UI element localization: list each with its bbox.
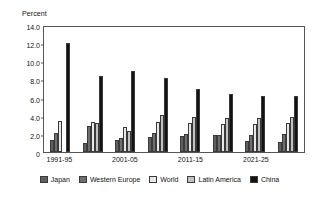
bar-group xyxy=(142,27,175,152)
x-axis-label-cell xyxy=(141,156,174,168)
x-axis-tick-label: 2021-25 xyxy=(243,156,269,163)
legend-item-label: China xyxy=(261,176,279,183)
x-axis-label-cell: 2021-25 xyxy=(240,156,273,168)
legend-swatch-icon xyxy=(79,176,87,183)
bar-china xyxy=(261,96,265,152)
legend-swatch-icon xyxy=(250,176,258,183)
legend-swatch-icon xyxy=(149,176,157,183)
legend-item-label: Latin America xyxy=(198,176,240,183)
legend-item-japan[interactable]: Japan xyxy=(40,176,70,183)
x-axis-tick-label: 2001-05 xyxy=(112,156,138,163)
bar-china xyxy=(99,76,103,152)
x-axis-label-cell xyxy=(76,156,109,168)
x-axis-label-cell xyxy=(272,156,305,168)
y-axis-unit-label: Percent xyxy=(22,10,47,17)
bar-group xyxy=(207,27,240,152)
legend-swatch-icon xyxy=(187,176,195,183)
x-axis-label-cell xyxy=(207,156,240,168)
bar-group xyxy=(239,27,272,152)
bar-china xyxy=(196,89,200,152)
legend-item-label: Japan xyxy=(51,176,70,183)
plot-area: 14.012.010.08.06.04.02.00 xyxy=(43,26,305,153)
bar-china xyxy=(294,96,298,152)
legend-item-world[interactable]: World xyxy=(149,176,178,183)
chart-legend: JapanWestern EuropeWorldLatin AmericaChi… xyxy=(0,176,319,183)
x-axis-label-cell: 2011-15 xyxy=(174,156,207,168)
x-axis-labels: 1991-952001-052011-152021-25 xyxy=(43,156,305,168)
legend-item-china[interactable]: China xyxy=(250,176,279,183)
bar-group xyxy=(77,27,110,152)
bar-china xyxy=(164,78,168,152)
plot-inner: 14.012.010.08.06.04.02.00 xyxy=(44,27,304,152)
bar-group xyxy=(44,27,77,152)
legend-item-label: World xyxy=(160,176,178,183)
legend-swatch-icon xyxy=(40,176,48,183)
bar-china xyxy=(229,94,233,152)
legend-item-western-europe[interactable]: Western Europe xyxy=(79,176,140,183)
x-axis-tick-label: 2011-15 xyxy=(178,156,203,163)
bar-groups xyxy=(44,27,304,152)
legend-item-label: Western Europe xyxy=(90,176,140,183)
x-axis-label-cell: 1991-95 xyxy=(43,156,76,168)
x-axis-label-cell: 2001-05 xyxy=(109,156,142,168)
bar-china xyxy=(131,71,135,152)
bar-china xyxy=(66,43,70,152)
y-axis-tick-label: 14.0 xyxy=(26,24,44,31)
bar-chart: Percent 14.012.010.08.06.04.02.00 1991-9… xyxy=(0,0,319,197)
bar-group xyxy=(109,27,142,152)
legend-item-latin-america[interactable]: Latin America xyxy=(187,176,240,183)
bar-world xyxy=(58,121,62,152)
bar-group xyxy=(272,27,305,152)
x-axis-tick-label: 1991-95 xyxy=(47,156,73,163)
bar-group xyxy=(174,27,207,152)
